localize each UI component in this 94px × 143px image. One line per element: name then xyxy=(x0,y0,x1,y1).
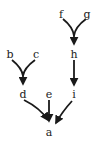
edges xyxy=(12,19,86,123)
graph-svg: f g h b c d e i a xyxy=(0,0,94,143)
edge-c-d xyxy=(23,60,35,76)
edge-d-a xyxy=(24,100,48,120)
node-a: a xyxy=(46,126,53,139)
node-b: b xyxy=(6,48,13,61)
edge-f-h xyxy=(63,19,74,44)
node-h: h xyxy=(70,48,77,61)
node-d: d xyxy=(19,88,26,101)
edge-i-a xyxy=(56,101,72,123)
node-i: i xyxy=(72,88,76,101)
diagram-canvas: f g h b c d e i a xyxy=(0,0,94,143)
node-g: g xyxy=(83,8,90,21)
node-c: c xyxy=(33,48,39,61)
edge-b-d xyxy=(12,60,23,84)
node-e: e xyxy=(46,88,53,101)
edge-g-h xyxy=(74,19,86,36)
